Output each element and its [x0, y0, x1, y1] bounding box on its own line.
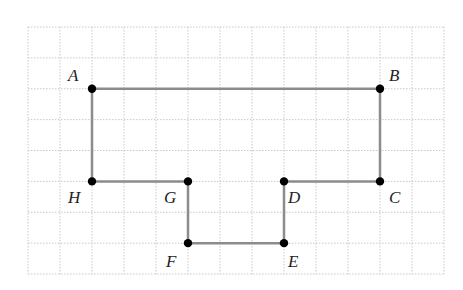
- grid-lines: [28, 27, 444, 274]
- vertex-f: [184, 239, 192, 247]
- label-h: H: [68, 189, 80, 206]
- label-e: E: [288, 253, 298, 270]
- vertex-d: [280, 177, 288, 185]
- polygon-abcdefgh: [92, 89, 380, 243]
- label-a: A: [68, 67, 78, 84]
- label-c: C: [389, 189, 400, 206]
- vertices: [88, 85, 384, 248]
- label-b: B: [389, 67, 399, 84]
- vertex-a: [88, 85, 96, 93]
- vertex-c: [376, 177, 384, 185]
- vertex-e: [280, 239, 288, 247]
- label-d: D: [288, 189, 300, 206]
- vertex-g: [184, 177, 192, 185]
- label-f: F: [166, 253, 176, 270]
- grid-diagram: [0, 0, 463, 290]
- vertex-b: [376, 85, 384, 93]
- vertex-h: [88, 177, 96, 185]
- label-g: G: [164, 189, 176, 206]
